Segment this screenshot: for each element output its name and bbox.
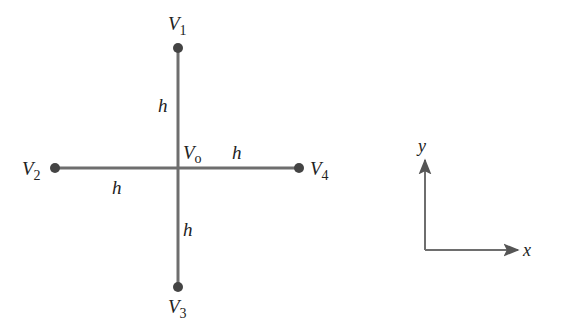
spacing-label-top: h: [158, 95, 168, 116]
node-v1: [173, 43, 183, 53]
label-v2: V2: [22, 158, 41, 183]
label-v4: V4: [310, 158, 329, 183]
x-axis-label: x: [522, 240, 531, 260]
spacing-label-left: h: [112, 177, 122, 198]
label-v3: V3: [168, 296, 187, 321]
node-v2: [50, 163, 60, 173]
node-v3: [173, 282, 183, 292]
spacing-label-bottom: h: [183, 219, 193, 240]
label-vo: Vo: [183, 142, 202, 166]
y-axis-label: y: [416, 136, 426, 156]
node-v4: [294, 163, 304, 173]
stencil-diagram: V1 V2 V3 V4 Vo h h h h y x: [0, 0, 561, 330]
spacing-label-right: h: [232, 142, 242, 163]
label-v1: V1: [168, 13, 187, 38]
